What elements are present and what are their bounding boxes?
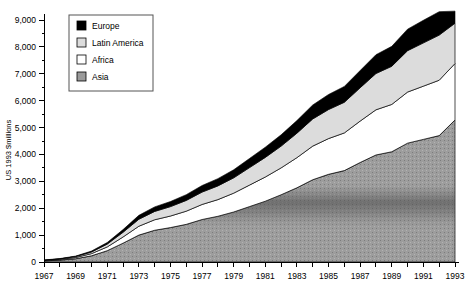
y-axis-title: US 1993 $millions (4, 120, 13, 181)
legend-label-latin-america: Latin America (92, 38, 144, 48)
x-tick-label: 1971 (98, 271, 117, 281)
x-tick-label: 1991 (414, 271, 433, 281)
legend-label-europe: Europe (92, 21, 120, 31)
x-tick-label: 1989 (382, 271, 401, 281)
x-tick-label: 1969 (66, 271, 85, 281)
x-tick-label: 1993 (446, 271, 465, 281)
y-tick-label: 6,000 (15, 96, 37, 106)
legend-label-asia: Asia (92, 72, 109, 82)
legend-swatch-africa (77, 55, 86, 64)
y-axis-tick-labels: 9,0008,0007,0006,0005,0004,0003,0002,000… (15, 15, 37, 267)
stacked-area-chart: 9,0008,0007,0006,0005,0004,0003,0002,000… (0, 0, 466, 291)
legend-swatch-latin-america (77, 38, 86, 47)
x-tick-label: 1977 (193, 271, 212, 281)
chart-legend: EuropeLatin AmericaAfricaAsia (69, 15, 153, 91)
y-tick-label: 1,000 (15, 230, 37, 240)
x-tick-label: 1985 (319, 271, 338, 281)
x-axis-tick-labels: 1967196919711973197519771979198119831985… (35, 271, 465, 281)
y-tick-label: 0 (31, 257, 36, 267)
y-tick-label: 9,000 (15, 15, 37, 25)
y-tick-label: 3,000 (15, 176, 37, 186)
x-tick-label: 1967 (35, 271, 54, 281)
x-tick-label: 1983 (287, 271, 306, 281)
x-tick-label: 1987 (351, 271, 370, 281)
chart-container: 9,0008,0007,0006,0005,0004,0003,0002,000… (0, 0, 466, 291)
x-tick-label: 1973 (129, 271, 148, 281)
legend-label-africa: Africa (92, 55, 114, 65)
y-tick-label: 4,000 (15, 149, 37, 159)
legend-swatch-europe (77, 21, 86, 30)
y-tick-label: 2,000 (15, 203, 37, 213)
legend-swatch-asia (77, 72, 86, 81)
x-tick-label: 1975 (161, 271, 180, 281)
y-tick-label: 8,000 (15, 42, 37, 52)
x-tick-label: 1981 (256, 271, 275, 281)
x-tick-label: 1979 (224, 271, 243, 281)
y-tick-label: 7,000 (15, 69, 37, 79)
y-tick-label: 5,000 (15, 123, 37, 133)
